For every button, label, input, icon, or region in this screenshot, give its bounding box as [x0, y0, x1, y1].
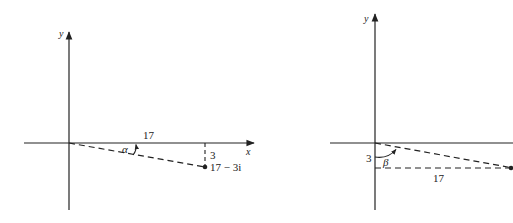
- right-y-axis-label: y: [363, 13, 369, 24]
- right-point-dot: [509, 166, 513, 171]
- left-real-label: 17: [143, 129, 155, 141]
- left-y-axis-label: y: [58, 28, 64, 39]
- right-vector-dashed: [375, 143, 513, 168]
- right-angle-label: β: [382, 156, 389, 168]
- left-x-axis-label: x: [245, 146, 251, 157]
- left-angle-arc: [133, 145, 136, 156]
- left-imag-label: 3: [210, 149, 216, 161]
- left-angle-label: α: [122, 143, 128, 155]
- right-horizontal-label: 17: [433, 172, 445, 184]
- diagram-canvas: y x 17 α 3 17 − 3i y 3 β 17: [0, 0, 513, 223]
- left-point-dot: [203, 165, 208, 170]
- left-vector-dashed: [69, 143, 205, 167]
- left-point-label: 17 − 3i: [210, 161, 241, 173]
- right-figure: y 3 β 17: [330, 13, 513, 210]
- left-figure: y x 17 α 3 17 − 3i: [24, 28, 254, 210]
- right-vertical-label: 3: [366, 152, 372, 164]
